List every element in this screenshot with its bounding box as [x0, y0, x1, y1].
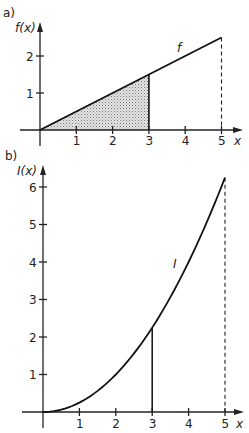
x-tick-label: 4	[185, 417, 193, 431]
y-tick-label: 4	[29, 256, 37, 270]
x-tick-label: 1	[76, 417, 84, 431]
f-curve-label: f	[177, 41, 183, 55]
b-curve-i	[43, 178, 225, 412]
i-curve-label: I	[173, 257, 177, 271]
x-tick-label: 5	[218, 134, 226, 148]
y-tick-label: 5	[29, 218, 37, 232]
figure: a) f(x) 1234512 f x b) I(x) 12345123456 …	[0, 0, 249, 433]
x-axis-arrow-icon	[233, 127, 243, 133]
b-axes	[22, 165, 244, 428]
x-tick-label: 2	[112, 417, 120, 431]
i-curve	[43, 178, 225, 412]
panel-b-label: b)	[5, 149, 17, 163]
y-tick-label: 6	[29, 181, 37, 195]
x-tick-label: 3	[149, 417, 157, 431]
panel-b: b) I(x) 12345123456 I x	[5, 149, 244, 431]
x-tick-label: 1	[73, 134, 81, 148]
x-tick-label: 2	[109, 134, 117, 148]
y-tick-label: 3	[29, 293, 37, 307]
panel-a: a) f(x) 1234512 f x	[3, 6, 243, 148]
b-ticks: 12345123456	[29, 178, 229, 431]
x-tick-label: 5	[222, 417, 230, 431]
a-x-axis-label: x	[233, 134, 242, 148]
a-y-axis-label: f(x)	[15, 21, 36, 35]
b-x-axis-label: x	[235, 417, 244, 431]
x-tick-label: 3	[145, 134, 153, 148]
x-tick-label: 4	[182, 134, 190, 148]
y-tick-label: 2	[29, 331, 37, 345]
y-axis-arrow-icon	[40, 165, 46, 175]
y-tick-label: 1	[29, 368, 37, 382]
b-y-axis-label: I(x)	[17, 164, 37, 178]
y-axis-arrow-icon	[37, 22, 43, 32]
y-tick-label: 2	[26, 50, 34, 64]
x-axis-arrow-icon	[234, 409, 244, 415]
panel-a-label: a)	[3, 6, 15, 20]
y-tick-label: 1	[26, 87, 34, 101]
